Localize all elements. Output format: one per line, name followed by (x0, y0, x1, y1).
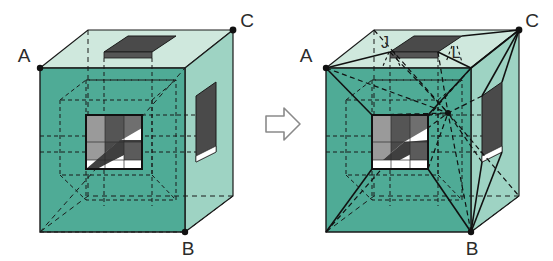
vertex-b-dot (468, 229, 474, 235)
vertex-c-dot (230, 27, 237, 34)
label-c-left: C (240, 10, 254, 31)
diagram-canvas: A B C (0, 0, 553, 261)
top-face-hole-lip (390, 52, 438, 58)
label-c-right: C (525, 10, 539, 31)
label-b-right: B (466, 238, 479, 259)
label-b-left: B (182, 238, 195, 259)
interior-point (445, 110, 451, 116)
front-face-hole (372, 115, 428, 169)
label-l: L (452, 44, 461, 61)
diagram-svg: A B C (0, 0, 553, 261)
vertex-a-dot (323, 65, 329, 71)
label-a-right: A (300, 45, 313, 66)
vertex-b-dot (182, 229, 188, 235)
top-face-hole-lip (104, 52, 152, 58)
vertex-a-dot (37, 65, 43, 71)
front-face-hole (86, 115, 142, 169)
vertex-c-dot (516, 27, 523, 34)
label-j: J (381, 34, 389, 51)
label-a-left: A (18, 45, 31, 66)
